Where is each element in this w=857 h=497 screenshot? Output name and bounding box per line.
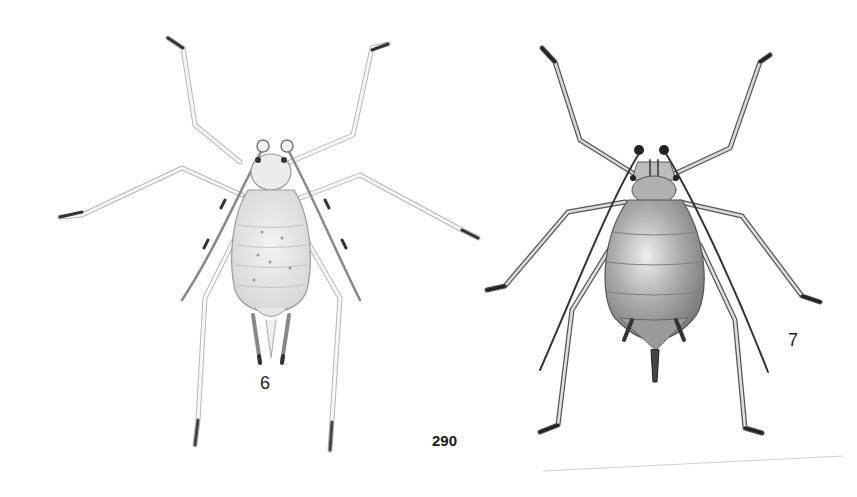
illustration-plate: 6 7 290 (0, 0, 857, 497)
page-number: 290 (432, 432, 457, 449)
aphid-figure-7 (487, 48, 820, 433)
figure-label-7: 7 (788, 330, 798, 351)
figure-label-6: 6 (260, 373, 270, 394)
aphid-illustrations (0, 0, 857, 497)
bottom-rule (543, 456, 843, 471)
